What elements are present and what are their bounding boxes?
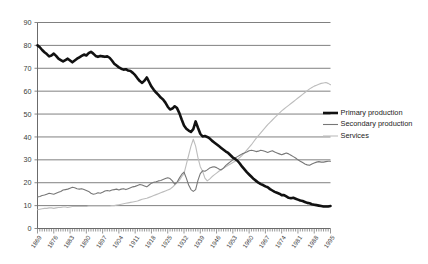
x-axis-tick-label: 1974: [273, 234, 287, 250]
data-series-group: [38, 45, 331, 209]
gridlines-group: [38, 23, 331, 206]
x-axis-tick-label: 1988: [306, 234, 320, 250]
x-axis-tick-label: 1967: [257, 234, 271, 250]
y-axis-tick-label: 60: [24, 87, 32, 96]
x-axis-labels-group: 1869187618831890189719041911191819251932…: [29, 234, 336, 250]
series-line-services: [38, 82, 331, 209]
x-axis-tick-label: 1953: [225, 234, 239, 250]
y-axis-tick-label: 30: [24, 155, 32, 164]
x-axis-tick-label: 1932: [176, 234, 190, 250]
x-axis-tick-label: 1897: [94, 234, 108, 250]
y-axis-tick-label: 90: [24, 18, 32, 27]
y-axis-tick-label: 80: [24, 41, 32, 50]
x-axis-tick-label: 1995: [322, 234, 336, 250]
x-axis-tick-label: 1911: [127, 234, 141, 249]
y-axis-tick-label: 0: [28, 224, 32, 233]
legend-label: Primary production: [341, 108, 403, 117]
y-axis-labels-group: 0102030405060708090: [24, 18, 32, 233]
legend-label: Services: [341, 131, 370, 140]
y-axis-tick-label: 50: [24, 110, 32, 119]
line-chart-svg: 0102030405060708090 18691876188318901897…: [0, 0, 428, 264]
y-axis-tick-label: 20: [24, 178, 32, 187]
legend-group: Primary productionSecondary productionSe…: [323, 108, 412, 140]
y-axis-tick-label: 40: [24, 133, 32, 142]
x-axis-tick-label: 1918: [143, 234, 157, 250]
x-axis-tick-label: 1960: [241, 234, 255, 250]
x-axis-tick-label: 1869: [29, 234, 43, 250]
legend-label: Secondary production: [341, 119, 413, 128]
x-axis-tick-label: 1946: [208, 234, 222, 250]
y-axis-tick-label: 70: [24, 64, 32, 73]
y-axis-tick-label: 10: [24, 201, 32, 210]
x-axis-tick-label: 1981: [290, 234, 304, 250]
x-axis-tick-label: 1939: [192, 234, 206, 250]
x-axis-tick-label: 1904: [111, 234, 125, 250]
series-line-secondary-production: [38, 150, 331, 197]
x-axis-tick-label: 1890: [78, 234, 92, 250]
x-axis-ticks-group: [38, 229, 331, 234]
chart-container: 0102030405060708090 18691876188318901897…: [0, 0, 428, 264]
x-axis-tick-label: 1876: [45, 234, 59, 250]
x-axis-tick-label: 1925: [159, 234, 173, 250]
x-axis-tick-label: 1883: [62, 234, 76, 250]
chart-plot-area: 0102030405060708090 18691876188318901897…: [0, 0, 428, 264]
